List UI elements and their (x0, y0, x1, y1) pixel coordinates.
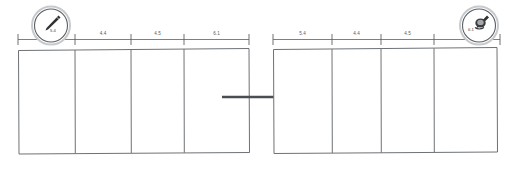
right-badge-label: 6.1 (468, 27, 474, 32)
left-dim-label-4: 6.1 (213, 31, 220, 36)
right-box-outline (274, 48, 498, 154)
right-dim-label-1: 5.4 (299, 31, 306, 36)
right-diagram-group: 5.4 4.4 4.5 (273, 31, 500, 154)
left-box-outline (19, 49, 250, 155)
diagram-svg: 4.4 4.5 6.1 5.4 (0, 0, 516, 173)
left-dim-label-2: 4.4 (100, 31, 107, 36)
right-dim-label-2: 4.4 (353, 31, 360, 36)
left-diagram-group: 4.4 4.5 6.1 (18, 31, 250, 155)
left-dim-label-3: 4.5 (154, 31, 161, 36)
drawing-canvas: 4.4 4.5 6.1 5.4 (0, 0, 516, 173)
right-revision-badge[interactable]: 6.1 (460, 7, 498, 45)
left-revision-badge[interactable]: 5.4 (32, 7, 70, 45)
right-dim-label-3: 4.5 (404, 31, 411, 36)
left-badge-label: 5.4 (50, 28, 56, 33)
